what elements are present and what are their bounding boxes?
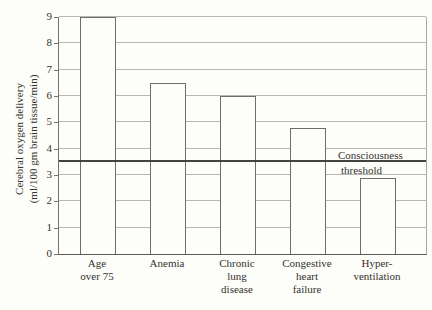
- y-tick-3: [54, 175, 59, 176]
- y-tick-2: [54, 201, 59, 202]
- y-tick-label-0: 0: [30, 247, 52, 260]
- y-tick-1: [54, 228, 59, 229]
- y-tick-8: [54, 43, 59, 44]
- y-tick-label-1: 1: [30, 221, 52, 234]
- y-tick-label-2: 2: [30, 194, 52, 207]
- x-label-hyper-ventilation: Hyper-ventilation: [332, 257, 422, 283]
- bar-congestive-heart-failure: [290, 128, 326, 254]
- bar-anemia: [150, 83, 186, 254]
- y-tick-label-8: 8: [30, 36, 52, 49]
- y-tick-0: [54, 254, 59, 255]
- y-tick-label-3: 3: [30, 168, 52, 181]
- y-tick-label-5: 5: [30, 115, 52, 128]
- y-tick-label-7: 7: [30, 63, 52, 76]
- y-tick-6: [54, 96, 59, 97]
- y-tick-5: [54, 122, 59, 123]
- x-label-line: failure: [262, 283, 352, 296]
- bar-hyper-ventilation: [360, 178, 396, 254]
- y-tick-4: [54, 149, 59, 150]
- x-label-line: ventilation: [332, 270, 422, 283]
- threshold-label-line-2: threshold: [341, 164, 382, 176]
- x-label-line: over 75: [52, 270, 142, 283]
- y-tick-9: [54, 17, 59, 18]
- y-tick-label-9: 9: [30, 10, 52, 23]
- x-label-line: Hyper-: [332, 257, 422, 270]
- cerebral-oxygen-delivery-figure: Cerebral oxygen delivery (ml/100 gm brai…: [0, 0, 432, 310]
- y-tick-label-6: 6: [30, 89, 52, 102]
- bar-chronic-lung-disease: [220, 96, 256, 254]
- y-axis-title-line1: Cerebral oxygen delivery: [13, 83, 25, 195]
- y-tick-7: [54, 70, 59, 71]
- plot-area: [58, 17, 427, 255]
- threshold-label-line-1: Consciousness: [338, 149, 403, 161]
- bar-age-over-75: [80, 17, 116, 254]
- y-tick-label-4: 4: [30, 142, 52, 155]
